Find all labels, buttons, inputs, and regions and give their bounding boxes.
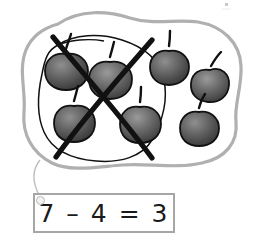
callout-anchor-dot — [36, 196, 45, 205]
registration-mark — [222, 3, 231, 9]
apple — [191, 52, 229, 102]
cross-out-x — [53, 37, 152, 158]
worksheet-illustration: 7 – 4 = 3 — [0, 0, 260, 246]
apple — [120, 87, 161, 143]
equation-text: 7 – 4 = 3 — [39, 201, 170, 226]
apple — [150, 31, 189, 85]
equation-box[interactable]: 7 – 4 = 3 — [33, 193, 175, 233]
leader-line — [34, 160, 40, 197]
